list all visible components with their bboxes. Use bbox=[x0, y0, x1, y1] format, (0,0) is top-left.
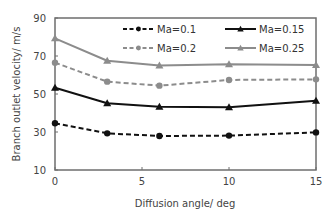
legend-label: Ma=0.1 bbox=[157, 24, 196, 35]
y-tick-label: 70 bbox=[33, 51, 46, 62]
x-tick-label: 0 bbox=[52, 176, 58, 187]
circle-marker-icon bbox=[52, 120, 58, 126]
plot-area bbox=[55, 18, 316, 170]
circle-marker-icon bbox=[156, 133, 162, 139]
legend-label: Ma=0.2 bbox=[157, 43, 196, 54]
circle-marker-icon bbox=[156, 82, 162, 88]
y-tick-label: 50 bbox=[33, 89, 46, 100]
plot-frame bbox=[55, 18, 316, 170]
y-axis-title: Branch outlet velocity/ m/s bbox=[11, 27, 22, 162]
circle-marker-icon bbox=[226, 132, 232, 138]
x-tick-label: 5 bbox=[139, 176, 145, 187]
circle-marker-icon bbox=[313, 76, 319, 82]
legend-label: Ma=0.15 bbox=[259, 24, 304, 35]
circle-marker-icon bbox=[226, 77, 232, 83]
y-tick-label: 10 bbox=[33, 165, 46, 176]
y-tick-label: 30 bbox=[33, 127, 46, 138]
legend-label: Ma=0.25 bbox=[259, 43, 304, 54]
circle-marker-icon bbox=[136, 27, 141, 32]
y-tick-label: 90 bbox=[33, 13, 46, 24]
circle-marker-icon bbox=[136, 46, 141, 51]
line-chart: 1030507090 051015 Ma=0.1Ma=0.15Ma=0.2Ma=… bbox=[0, 0, 333, 219]
x-tick-label: 10 bbox=[223, 176, 236, 187]
circle-marker-icon bbox=[52, 59, 58, 65]
circle-marker-icon bbox=[104, 78, 110, 84]
x-axis-title: Diffusion angle/ deg bbox=[135, 198, 235, 209]
x-tick-label: 15 bbox=[310, 176, 323, 187]
circle-marker-icon bbox=[313, 129, 319, 135]
circle-marker-icon bbox=[104, 130, 110, 136]
